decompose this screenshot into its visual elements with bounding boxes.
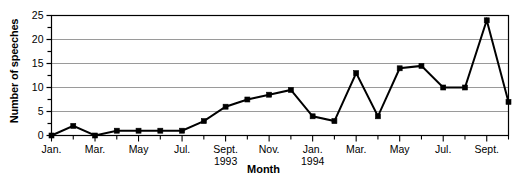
series-line (52, 20, 509, 135)
data-point-marker (245, 97, 250, 102)
x-tick-label: Jul. (174, 143, 190, 155)
data-point-marker (201, 119, 206, 124)
data-point-marker (419, 63, 424, 68)
y-tick-label: 15 (32, 57, 44, 69)
data-point-markers (49, 18, 511, 138)
data-point-marker (158, 128, 163, 133)
x-tick-label: Jan. (303, 143, 323, 155)
x-tick-label: May (390, 143, 411, 155)
x-tick-label: Mar. (346, 143, 366, 155)
data-point-marker (49, 133, 54, 138)
data-point-marker (332, 119, 337, 124)
data-point-marker (462, 85, 467, 90)
data-series-line (52, 20, 509, 135)
data-point-marker (397, 66, 402, 71)
data-point-marker (484, 18, 489, 23)
y-tick-label: 0 (38, 129, 44, 141)
data-point-marker (136, 128, 141, 133)
x-tick-label: Mar. (85, 143, 105, 155)
x-tick-label: Jan. (42, 143, 62, 155)
y-axis-ticks (47, 16, 52, 136)
y-tick-label: 20 (32, 33, 44, 45)
data-point-marker (441, 85, 446, 90)
data-point-marker (93, 133, 98, 138)
x-tick-label: Sept. (213, 143, 238, 155)
plot-frame (52, 16, 509, 136)
x-tick-label: Nov. (259, 143, 280, 155)
axis-frame (52, 16, 509, 136)
x-tick-label: Sept. (474, 143, 499, 155)
data-point-marker (71, 123, 76, 128)
x-axis-title: Month (0, 163, 527, 175)
gridlines (52, 16, 509, 112)
data-point-marker (375, 114, 380, 119)
data-point-marker (114, 128, 119, 133)
data-point-marker (223, 104, 228, 109)
y-tick-label: 5 (38, 105, 44, 117)
x-tick-label: May (129, 143, 150, 155)
y-tick-label: 10 (32, 81, 44, 93)
data-point-marker (180, 128, 185, 133)
data-point-marker (310, 114, 315, 119)
data-point-marker (267, 92, 272, 97)
x-axis-ticks (52, 136, 509, 142)
y-tick-label: 25 (32, 9, 44, 21)
data-point-marker (354, 71, 359, 76)
x-tick-label: Jul. (435, 143, 451, 155)
data-point-marker (288, 87, 293, 92)
y-axis-tick-labels: 0510152025 (32, 9, 44, 141)
line-chart: Number of speeches 0510152025 Jan.Mar.Ma… (0, 0, 527, 183)
data-point-marker (506, 99, 511, 104)
plot-area: 0510152025 Jan.Mar.MayJul.Sept.1993Nov.J… (0, 0, 527, 183)
